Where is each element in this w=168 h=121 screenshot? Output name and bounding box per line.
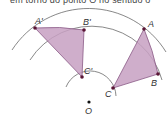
point-b <box>156 72 160 76</box>
label-c: C <box>105 89 112 99</box>
rotation-diagram: A' B' C' A B C O <box>0 0 168 121</box>
label-a: A <box>147 19 154 29</box>
triangle-image <box>35 27 84 77</box>
label-b-prime: B' <box>83 17 91 27</box>
label-o: O <box>85 106 92 116</box>
point-a-prime <box>33 26 37 30</box>
center-point-o <box>87 100 90 103</box>
point-b-prime <box>82 28 86 32</box>
point-c <box>111 86 115 90</box>
label-c-prime: C' <box>84 66 92 76</box>
label-b: B <box>151 78 157 88</box>
point-a <box>142 27 146 31</box>
label-a-prime: A' <box>34 16 43 26</box>
